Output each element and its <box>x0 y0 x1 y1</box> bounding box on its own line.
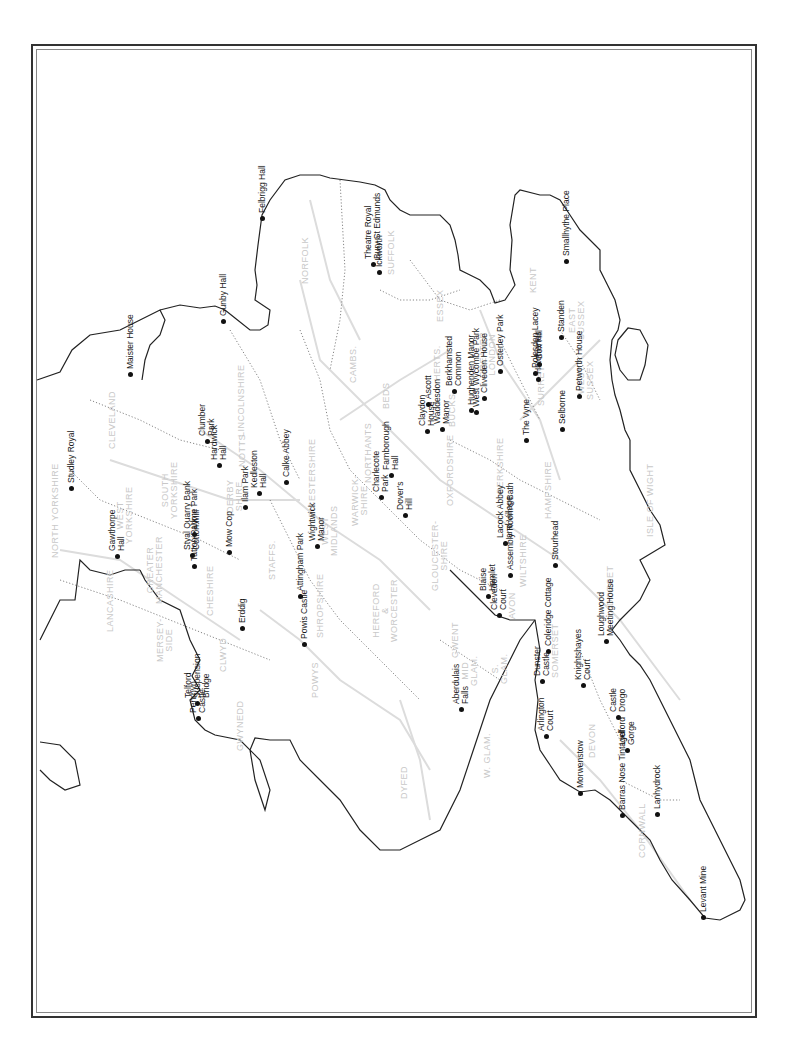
county-label: OXFORDSHIRE <box>446 434 455 506</box>
site-label: Stourhead <box>551 521 560 560</box>
site-marker-icon[interactable] <box>440 427 445 432</box>
county-label: GLOUCESTER- SHIRE <box>431 520 449 591</box>
site-label: Arlington Court <box>537 697 555 731</box>
site-marker-icon[interactable] <box>221 319 226 324</box>
site-label: Kedleston Hall <box>250 450 268 488</box>
county-label: GREATER MANCHESTER <box>146 536 164 604</box>
site-marker-icon[interactable] <box>315 544 320 549</box>
site-marker-icon[interactable] <box>227 550 232 555</box>
county-label: HERTS. <box>433 345 442 381</box>
site-marker-icon[interactable] <box>559 335 564 340</box>
site-marker-icon[interactable] <box>536 377 541 382</box>
site-label: Assembly Room's Bath <box>506 482 515 570</box>
site-marker-icon[interactable] <box>577 394 582 399</box>
site-marker-icon[interactable] <box>196 716 201 721</box>
site-label: Morwenstow <box>576 740 585 788</box>
county-label: S. GLAM. <box>491 653 509 684</box>
site-marker-icon[interactable] <box>240 626 245 631</box>
site-label: Lanhydrock <box>653 765 662 809</box>
county-label: LINCOLNSHIRE <box>237 364 246 437</box>
site-marker-icon[interactable] <box>524 438 529 443</box>
site-label: Waddesdon Manor <box>433 379 451 424</box>
site-marker-icon[interactable] <box>620 813 625 818</box>
site-marker-icon[interactable] <box>497 613 502 618</box>
site-marker-icon[interactable] <box>403 513 408 518</box>
county-label: NORTH YORKSHIRE <box>51 463 60 558</box>
site-marker-icon[interactable] <box>498 369 503 374</box>
site-label: Ilam Park <box>241 466 250 502</box>
site-label: Tatton Park <box>190 518 199 561</box>
site-marker-icon[interactable] <box>128 372 133 377</box>
county-label: CLWYD <box>219 638 228 672</box>
county-label: MERSEY- SIDE <box>156 618 174 662</box>
site-marker-icon[interactable] <box>474 410 479 415</box>
site-marker-icon[interactable] <box>69 486 74 491</box>
site-label: West Wycombe Park <box>472 328 481 407</box>
site-marker-icon[interactable] <box>192 564 197 569</box>
site-label: Castle Drogo <box>609 688 627 712</box>
site-label: Levant Mine <box>699 866 708 912</box>
site-label: Dunster Castle <box>533 646 551 676</box>
site-marker-icon[interactable] <box>377 270 382 275</box>
county-label: DEVON <box>588 723 597 758</box>
county-label: NOTTS <box>238 434 247 467</box>
site-marker-icon[interactable] <box>540 679 545 684</box>
site-marker-icon[interactable] <box>205 439 210 444</box>
site-marker-icon[interactable] <box>284 480 289 485</box>
site-label: Felbrigg Hall <box>258 165 267 213</box>
site-marker-icon[interactable] <box>508 573 513 578</box>
site-marker-icon[interactable] <box>544 734 549 739</box>
site-marker-icon[interactable] <box>655 812 660 817</box>
site-label: Smallhythe Place <box>562 190 571 256</box>
site-label: Ickworth <box>375 235 384 267</box>
county-label: KENT <box>529 267 538 293</box>
site-label: Knightshayes Court <box>574 629 592 680</box>
site-marker-icon[interactable] <box>243 505 248 510</box>
site-marker-icon[interactable] <box>564 259 569 264</box>
site-label: Dover's Hill <box>396 481 414 510</box>
site-label: Hatchlands <box>534 331 543 374</box>
site-label: Studley Royal <box>67 431 76 483</box>
site-marker-icon[interactable] <box>560 427 565 432</box>
site-label: Wightwick Manor <box>308 503 326 541</box>
site-marker-icon[interactable] <box>578 791 583 796</box>
site-label: Clumber Park <box>198 404 216 436</box>
site-label: Charlecote Park <box>372 451 390 492</box>
site-marker-icon[interactable] <box>482 396 487 401</box>
county-label: POWYS <box>311 662 320 698</box>
site-label: Clevedon Court <box>490 574 508 610</box>
site-marker-icon[interactable] <box>469 408 474 413</box>
site-marker-icon[interactable] <box>553 563 558 568</box>
site-label: Coleridge Cottage <box>544 577 553 646</box>
site-label: Erddig <box>238 598 247 623</box>
county-label: GWENT <box>451 622 460 658</box>
site-marker-icon[interactable] <box>452 389 457 394</box>
county-label: CORNWALL <box>638 803 647 858</box>
site-marker-icon[interactable] <box>459 707 464 712</box>
site-marker-icon[interactable] <box>217 463 222 468</box>
county-label: SHROPSHIRE <box>316 573 325 638</box>
site-label: Osterley Park <box>496 315 505 367</box>
county-label: DYFED <box>400 765 409 798</box>
site-label: Loughwood Meeting House <box>597 579 615 636</box>
site-marker-icon[interactable] <box>115 554 120 559</box>
site-label: Aberdulais Falls <box>452 664 470 704</box>
site-marker-icon[interactable] <box>581 683 586 688</box>
site-marker-icon[interactable] <box>604 639 609 644</box>
site-label: Attingham Park <box>296 533 305 591</box>
site-marker-icon[interactable] <box>257 491 262 496</box>
county-label: HAMPSHIRE <box>544 461 553 519</box>
site-marker-icon[interactable] <box>260 216 265 221</box>
site-marker-icon[interactable] <box>701 915 706 920</box>
site-marker-icon[interactable] <box>425 429 430 434</box>
county-label: NORFOLK <box>301 236 310 283</box>
site-label: Gunby Hall <box>219 274 228 316</box>
county-label: SUFFOLK <box>387 229 396 274</box>
county-label: CLEVELAND <box>108 391 117 449</box>
site-label: Mow Cop <box>225 511 234 547</box>
site-label: Penrhyn Castle <box>189 681 207 713</box>
site-marker-icon[interactable] <box>302 642 307 647</box>
county-label: CHESHIRE <box>206 565 215 616</box>
county-label: W. GLAM. <box>483 732 492 777</box>
site-marker-icon[interactable] <box>379 495 384 500</box>
